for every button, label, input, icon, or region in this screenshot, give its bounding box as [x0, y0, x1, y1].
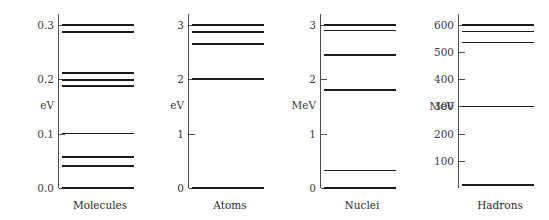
y-tick-hadrons-3	[459, 79, 465, 80]
panel-caption-hadrons: Hadrons	[450, 200, 549, 211]
y-tick-label-hadrons-4: 500	[406, 47, 454, 58]
y-tick-hadrons-1	[459, 134, 465, 135]
energy-level-hadrons-0	[462, 184, 534, 186]
y-tick-hadrons-0	[459, 161, 465, 162]
y-tick-hadrons-4	[459, 52, 465, 53]
y-tick-label-hadrons-5: 600	[406, 20, 454, 31]
panel-hadrons: 100200300400500600MeVHadrons	[0, 0, 549, 220]
y-axis-unit-hadrons: MeV	[406, 101, 454, 112]
energy-level-hadrons-2	[462, 42, 534, 44]
energy-level-hadrons-3	[462, 31, 534, 33]
energy-level-hadrons-4	[462, 24, 534, 26]
y-tick-label-hadrons-1: 200	[406, 129, 454, 140]
y-tick-label-hadrons-3: 400	[406, 74, 454, 85]
energy-level-hadrons-1	[462, 106, 534, 108]
energy-level-figure: 0.00.10.20.3eVMolecules0123eVAtoms0123Me…	[0, 0, 549, 220]
y-tick-label-hadrons-0: 100	[406, 156, 454, 167]
